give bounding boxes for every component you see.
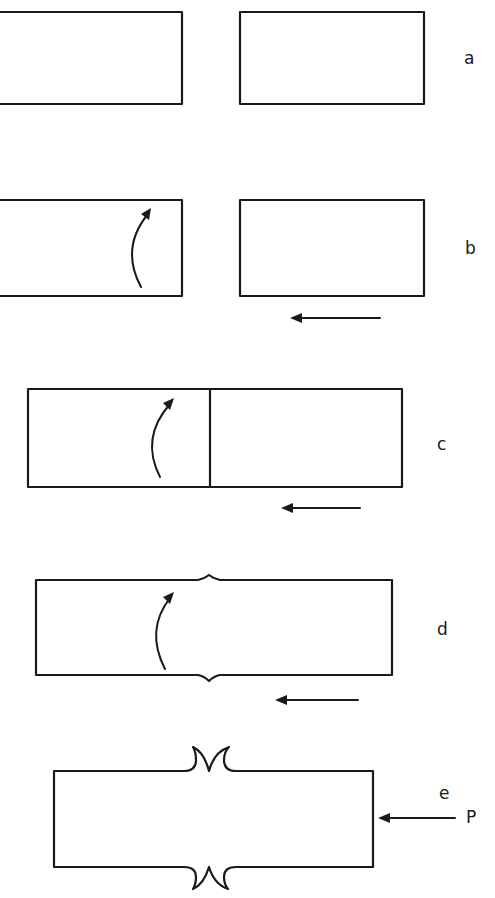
left-arrow-icon <box>290 313 380 323</box>
force-arrow-icon <box>378 813 455 823</box>
panel-label-a: a <box>464 50 474 67</box>
panel-e-welded-block-with-flash <box>54 747 373 889</box>
panel-b <box>0 200 424 323</box>
panel-label-c: c <box>437 436 446 453</box>
rotation-arrow-icon <box>152 398 174 477</box>
panel-label-e: e <box>439 785 449 802</box>
panel-a-right-block <box>240 12 424 104</box>
force-label-p: P <box>466 809 476 826</box>
panel-a <box>0 12 424 104</box>
rotation-arrow-icon <box>132 208 151 287</box>
panel-label-b: b <box>465 240 476 257</box>
panel-a-left-block <box>0 12 182 104</box>
panel-c-joined-blocks <box>28 389 402 487</box>
friction-welding-diagram <box>0 0 495 898</box>
panel-d <box>36 575 392 705</box>
panel-c <box>28 389 402 513</box>
panel-d-welded-block <box>36 575 392 681</box>
left-arrow-icon <box>281 503 360 513</box>
panel-label-d: d <box>437 621 448 638</box>
left-arrow-icon <box>275 695 358 705</box>
panel-b-right-block <box>240 200 424 296</box>
rotation-arrow-icon <box>156 592 174 669</box>
panel-e <box>54 747 455 889</box>
panel-b-left-block <box>0 200 182 296</box>
